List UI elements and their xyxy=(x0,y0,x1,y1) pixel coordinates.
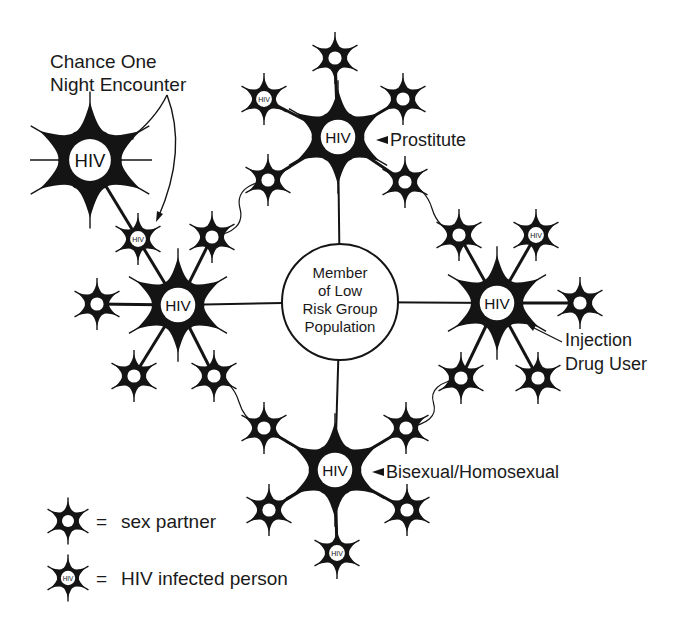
pointer-arrow-icon xyxy=(527,324,536,331)
partner-circle xyxy=(452,228,465,241)
partner-circle xyxy=(257,421,270,434)
pointer-arrow-icon xyxy=(372,468,384,476)
label-chance-encounter: Chance One xyxy=(50,51,157,72)
partner-node xyxy=(112,350,157,402)
pointer-arrow-icon xyxy=(376,136,388,144)
hiv-text: HIV xyxy=(530,232,542,239)
sex-partner-icon xyxy=(48,497,89,544)
partner-circle xyxy=(399,421,412,434)
hiv-text: HIV xyxy=(322,462,348,479)
hiv-text: HIV xyxy=(331,550,343,557)
partner-node xyxy=(242,402,287,454)
legend-equals: = xyxy=(96,511,107,532)
hiv-infected-icon: HIV xyxy=(48,554,89,601)
partner-node xyxy=(385,484,430,536)
hiv-text: HIV xyxy=(63,575,74,582)
partner-circle xyxy=(531,371,544,384)
partner-circle xyxy=(573,296,586,309)
partner-circle xyxy=(127,369,140,382)
hub-prostitute: HIV xyxy=(289,80,387,193)
center-label-line: Risk Group xyxy=(302,300,377,317)
partner-circle xyxy=(398,175,411,188)
partner-circle xyxy=(62,515,74,527)
center-label-line: Population xyxy=(305,318,376,335)
partner-circle xyxy=(328,51,341,64)
partner-node xyxy=(437,209,482,261)
curved-arrow xyxy=(158,95,176,218)
hiv-partner-node: HIV xyxy=(315,527,360,579)
partner-circle xyxy=(454,371,467,384)
hiv-text: HIV xyxy=(165,297,191,314)
legend-item-sex-partner: =sex partner xyxy=(48,497,217,544)
partner-node xyxy=(439,352,484,404)
legend-equals: = xyxy=(96,568,107,589)
hub-bisexual-homosexual: HIV xyxy=(286,413,384,526)
partner-circle xyxy=(261,173,274,186)
partner-node xyxy=(246,154,291,206)
partner-node xyxy=(383,156,428,208)
partner-circle xyxy=(90,297,103,310)
partner-node xyxy=(190,211,235,263)
hiv-spread-diagram: HIVHIVHIVHIVHIVHIVHIVHIVHIV Memberof Low… xyxy=(0,0,680,617)
partner-circle xyxy=(396,92,409,105)
arrowhead-icon xyxy=(156,211,163,222)
partner-node xyxy=(384,402,429,454)
partner-circle xyxy=(400,503,413,516)
label-injection-drug-user: Drug User xyxy=(565,354,647,374)
center-label-line: Member xyxy=(312,264,367,281)
hiv-text: HIV xyxy=(258,96,270,103)
legend-item-hiv-infected: HIV=HIV infected person xyxy=(48,554,288,601)
label-injection-drug-user: Injection xyxy=(565,330,632,350)
hiv-partner-node: HIV xyxy=(514,209,559,261)
partner-circle xyxy=(205,230,218,243)
legend-label: sex partner xyxy=(121,511,217,532)
hiv-text: HIV xyxy=(484,295,510,312)
partner-circle xyxy=(207,369,220,382)
partner-node xyxy=(192,350,237,402)
partner-circle xyxy=(262,503,275,516)
partner-node xyxy=(247,484,292,536)
label-chance-encounter: Night Encounter xyxy=(50,74,187,95)
hiv-text: HIV xyxy=(325,129,351,146)
hiv-partner-node: HIV xyxy=(242,73,287,125)
partner-node xyxy=(381,73,426,125)
hiv-text: HIV xyxy=(132,236,144,243)
legend: =sex partnerHIV=HIV infected person xyxy=(48,497,288,601)
partner-node xyxy=(516,352,561,404)
label-bisexual-homosexual: Bisexual/Homosexual xyxy=(386,462,559,482)
label-prostitute: Prostitute xyxy=(390,130,466,150)
legend-label: HIV infected person xyxy=(121,568,288,589)
hiv-text: HIV xyxy=(75,150,107,171)
hiv-partner-node: HIV xyxy=(116,213,161,265)
partner-node xyxy=(313,32,358,84)
center-label-line: of Low xyxy=(318,282,362,299)
